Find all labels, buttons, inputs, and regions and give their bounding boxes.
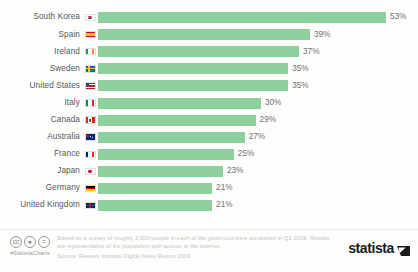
- source-text: Source: Reuters Institute Digital News R…: [57, 252, 335, 260]
- chart-row: Ireland37%: [0, 43, 418, 60]
- bar-value-label: 39%: [314, 31, 330, 39]
- bar-value-label: 29%: [260, 116, 276, 124]
- survey-note: Based on a survey of roughly 2,000 peopl…: [57, 234, 335, 251]
- row-label: Ireland: [0, 48, 82, 56]
- bar-value-label: 37%: [303, 48, 319, 56]
- bar-track: 35%: [98, 60, 418, 77]
- statista-logo: statista: [348, 241, 410, 255]
- bar-track: 35%: [98, 77, 418, 94]
- chart-row: Japan23%: [0, 163, 418, 180]
- by-icon: ●: [24, 236, 36, 248]
- bar: [98, 63, 288, 74]
- chart-row: Canada29%: [0, 112, 418, 129]
- statista-wordmark: statista: [348, 241, 394, 255]
- bar: [98, 183, 212, 194]
- flag-italy-icon: [82, 99, 98, 108]
- bar: [98, 200, 212, 211]
- chart-footer: cc ● = #StatistaCharts Based on a survey…: [0, 229, 418, 272]
- chart-row: Australia27%: [0, 129, 418, 146]
- flag-sweden-icon: [82, 64, 98, 73]
- creative-commons-icons: cc ● =: [4, 236, 56, 248]
- bar-track: 23%: [98, 163, 418, 180]
- chart-row: France25%: [0, 146, 418, 163]
- flag-australia-icon: [82, 133, 98, 142]
- bar-value-label: 21%: [216, 201, 232, 209]
- chart-row: Germany21%: [0, 180, 418, 197]
- row-label: Spain: [0, 31, 82, 39]
- row-label: South Korea: [0, 13, 82, 21]
- bar-track: 30%: [98, 94, 418, 111]
- bar-track: 25%: [98, 146, 418, 163]
- bar: [98, 132, 245, 143]
- bar: [98, 80, 288, 91]
- bar: [98, 149, 234, 160]
- bar-value-label: 27%: [249, 133, 265, 141]
- chart-row: Spain39%: [0, 26, 418, 43]
- row-label: United States: [0, 82, 82, 90]
- bar: [98, 115, 256, 126]
- flag-united-states-icon: [82, 81, 98, 90]
- bar: [98, 166, 223, 177]
- bar-value-label: 21%: [216, 184, 232, 192]
- statista-bar-chart: South Korea53%Spain39%Ireland37%Sweden35…: [0, 0, 418, 272]
- nd-icon: =: [38, 236, 50, 248]
- flag-france-icon: [82, 150, 98, 159]
- row-label: Italy: [0, 99, 82, 107]
- bar: [98, 46, 299, 57]
- flag-germany-icon: [82, 184, 98, 193]
- statista-hashtag: #StatistaCharts: [4, 250, 56, 256]
- flag-ireland-icon: [82, 47, 98, 56]
- bar-track: 21%: [98, 197, 418, 214]
- bar: [98, 98, 261, 109]
- bar: [98, 12, 386, 23]
- bar-track: 29%: [98, 112, 418, 129]
- row-label: Canada: [0, 116, 82, 124]
- bar-track: 21%: [98, 180, 418, 197]
- bar-track: 39%: [98, 26, 418, 43]
- flag-japan-icon: [82, 167, 98, 176]
- creative-commons-block: cc ● = #StatistaCharts: [4, 236, 56, 256]
- chart-row: Italy30%: [0, 94, 418, 111]
- row-label: United Kingdom: [0, 201, 82, 209]
- flag-spain-icon: [82, 30, 98, 39]
- bar: [98, 29, 310, 40]
- row-label: Japan: [0, 167, 82, 175]
- bar-value-label: 25%: [238, 150, 254, 158]
- bar-value-label: 35%: [292, 82, 308, 90]
- source-block: Based on a survey of roughly 2,000 peopl…: [57, 234, 335, 260]
- flag-canada-icon: [82, 116, 98, 125]
- bar-value-label: 23%: [227, 167, 243, 175]
- row-label: France: [0, 150, 82, 158]
- bar-value-label: 30%: [265, 99, 281, 107]
- chart-row: United Kingdom21%: [0, 197, 418, 214]
- chart-plot-area: South Korea53%Spain39%Ireland37%Sweden35…: [0, 9, 418, 223]
- bar-track: 53%: [98, 9, 418, 26]
- bar-track: 27%: [98, 129, 418, 146]
- cc-icon: cc: [10, 236, 22, 248]
- row-label: Australia: [0, 133, 82, 141]
- row-label: Sweden: [0, 65, 82, 73]
- chart-row: Sweden35%: [0, 60, 418, 77]
- flag-south-korea-icon: [82, 13, 98, 22]
- chart-row: South Korea53%: [0, 9, 418, 26]
- flag-united-kingdom-icon: [82, 201, 98, 210]
- bar-track: 37%: [98, 43, 418, 60]
- bar-value-label: 35%: [292, 65, 308, 73]
- bar-value-label: 53%: [390, 13, 406, 21]
- chart-row: United States35%: [0, 77, 418, 94]
- statista-logo-mark: [397, 242, 410, 254]
- row-label: Germany: [0, 184, 82, 192]
